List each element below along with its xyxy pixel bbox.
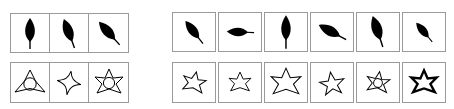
right-leaf-row [172,12,446,52]
right-star-cell-1 [172,62,216,103]
right-leaf-cell-5 [356,12,400,52]
leaf-icon [19,16,41,50]
right-star-row [172,62,446,103]
star-6-point-icon [365,70,391,96]
leaf-icon [366,14,390,50]
right-star-cell-4 [310,62,354,103]
star-4-point-icon [54,69,84,97]
star-6-point-icon [410,69,439,97]
star-6-point-icon [269,67,303,99]
star-3-point-icon [14,68,46,98]
leaf-icon [412,15,436,49]
right-leaf-cell-6 [402,12,446,52]
right-star-cell-6 [402,62,446,103]
right-leaf-cell-2 [218,12,262,52]
star-6-point-icon [93,68,125,98]
left-star-row [10,62,129,103]
leaf-icon [58,16,80,50]
leaf-icon [320,15,344,49]
right-star-cell-3 [264,62,308,103]
leaf-icon [274,14,298,50]
right-leaf-cell-4 [310,12,354,52]
left-leaf-cell-2 [50,14,89,52]
left-star-cell-1 [11,63,50,102]
left-leaf-cell-3 [89,14,128,52]
left-star-cell-3 [89,63,128,102]
left-panel [10,13,129,103]
left-leaf-row [10,13,129,53]
leaf-icon [228,15,252,49]
left-leaf-cell-1 [11,14,50,52]
right-leaf-cell-3 [264,12,308,52]
right-panel [172,12,446,103]
left-star-cell-2 [50,63,89,102]
star-5-point-icon [319,70,346,96]
right-star-cell-5 [356,62,400,103]
leaf-icon [182,15,206,49]
star-6-point-icon [181,70,207,96]
right-leaf-cell-1 [172,12,216,52]
right-star-cell-2 [218,62,262,103]
leaf-icon [98,16,120,50]
star-6-point-icon [228,70,253,95]
